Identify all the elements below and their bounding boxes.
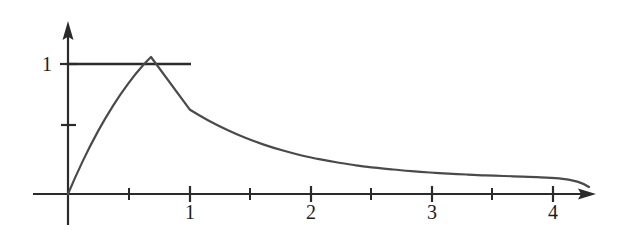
x-axis-tick-label-3: 3 — [427, 202, 437, 222]
x-axis-tick-label-1: 1 — [185, 202, 195, 222]
y-axis-tick-label-1: 1 — [42, 54, 52, 74]
x-axis-tick-label-2: 2 — [306, 202, 316, 222]
chart-plot-area — [0, 0, 617, 230]
x-axis-tick-label-4: 4 — [548, 202, 558, 222]
data-curve — [68, 57, 589, 194]
chart-figure: 1 1 2 3 4 — [0, 0, 617, 230]
